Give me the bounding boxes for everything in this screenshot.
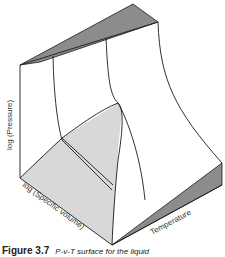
pvt-surface-diagram: log (Pressure) log (Specific volume) Tem… [0, 0, 225, 257]
temperature-axis-edge [112, 185, 222, 245]
top-face [20, 4, 158, 65]
caption-label: Figure 3.7 [2, 245, 49, 256]
pressure-axis-label: log (Pressure) [5, 99, 14, 150]
figure-caption: Figure 3.7P-v-T surface for the liquid [2, 245, 149, 256]
right-face [112, 163, 222, 245]
caption-text: P-v-T surface for the liquid [55, 247, 149, 256]
isotherm-3 [158, 22, 222, 163]
